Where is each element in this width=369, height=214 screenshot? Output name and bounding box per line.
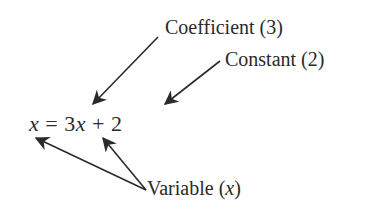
equation-equals: =: [45, 111, 58, 136]
equation-rhs-variable: x: [76, 111, 86, 136]
variable-label-text: Variable (: [147, 177, 225, 199]
equation-lhs-variable: x: [29, 111, 39, 136]
equation: x = 3x + 2: [29, 113, 122, 135]
variable-label-symbol: x: [225, 177, 234, 199]
equation-constant: 2: [111, 111, 123, 136]
variable-label-close: ): [234, 177, 241, 199]
equation-plus: +: [92, 111, 105, 136]
variable-arrow-right: [103, 138, 146, 190]
constant-arrow: [165, 61, 220, 104]
equation-coefficient: 3: [64, 111, 76, 136]
constant-label: Constant (2): [225, 49, 324, 69]
coefficient-arrow: [93, 37, 158, 104]
coefficient-label: Coefficient (3): [165, 17, 283, 37]
variable-arrow-left: [36, 138, 146, 190]
variable-label: Variable (x): [147, 178, 241, 198]
